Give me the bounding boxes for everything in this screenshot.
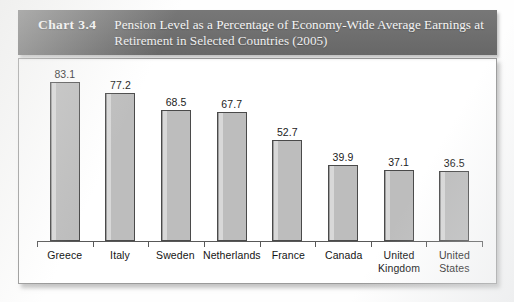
- bar-value-label: 39.9: [333, 151, 354, 163]
- bar-value-label: 83.1: [54, 68, 75, 80]
- x-axis-ticks: [37, 241, 482, 247]
- bar: [161, 110, 191, 241]
- axis-tick: [371, 241, 372, 247]
- axis-tick: [37, 241, 38, 247]
- category-label: France: [261, 249, 316, 262]
- category-slot: France: [261, 249, 316, 275]
- category-slot: United States: [427, 249, 482, 275]
- category-slot: Italy: [92, 249, 147, 275]
- plot-area: 83.177.268.567.752.739.937.136.5 GreeceI…: [19, 59, 496, 283]
- axis-tick: [315, 241, 316, 247]
- bar-slot: 39.9: [315, 63, 371, 241]
- axis-tick: [148, 241, 149, 247]
- bar: [105, 93, 135, 241]
- category-label: Greece: [37, 249, 92, 262]
- bar-slot: 52.7: [260, 63, 316, 241]
- axis-tick: [482, 241, 483, 247]
- category-slot: United Kingdom: [371, 249, 426, 275]
- bar-value-label: 67.7: [221, 98, 242, 110]
- bar-value-label: 68.5: [166, 96, 187, 108]
- bar-value-label: 77.2: [110, 79, 131, 91]
- x-axis-category-labels: GreeceItalySwedenNetherlandsFranceCanada…: [37, 249, 482, 275]
- axis-tick: [93, 241, 94, 247]
- bar-value-label: 52.7: [277, 126, 298, 138]
- category-label: United Kingdom: [371, 249, 426, 275]
- chart-figure: Chart 3.4 Pension Level as a Percentage …: [0, 0, 514, 302]
- bar-slot: 77.2: [93, 63, 149, 241]
- category-label: Italy: [92, 249, 147, 262]
- category-label: Canada: [316, 249, 371, 262]
- category-label: Netherlands: [203, 249, 261, 262]
- bar-slot: 68.5: [148, 63, 204, 241]
- bar: [328, 165, 358, 241]
- plot-panel: 83.177.268.567.752.739.937.136.5 GreeceI…: [18, 58, 497, 284]
- bar: [217, 112, 247, 241]
- axis-tick: [204, 241, 205, 247]
- bar-value-label: 37.1: [388, 156, 409, 168]
- bar: [384, 170, 414, 241]
- axis-tick: [260, 241, 261, 247]
- category-label: Sweden: [148, 249, 203, 262]
- category-slot: Greece: [37, 249, 92, 275]
- bar: [439, 171, 469, 241]
- bar: [272, 140, 302, 241]
- chart-number-label: Chart 3.4: [38, 17, 96, 33]
- category-slot: Canada: [316, 249, 371, 275]
- category-label: United States: [427, 249, 482, 275]
- category-slot: Netherlands: [203, 249, 261, 275]
- bar-slot: 67.7: [204, 63, 260, 241]
- bar-slot: 37.1: [371, 63, 427, 241]
- chart-title-label: Pension Level as a Percentage of Economy…: [114, 17, 489, 49]
- axis-tick: [426, 241, 427, 247]
- bar: [50, 82, 80, 241]
- bar-slot: 36.5: [426, 63, 482, 241]
- chart-header-text: Chart 3.4 Pension Level as a Percentage …: [38, 17, 489, 49]
- bar-series: 83.177.268.567.752.739.937.136.5: [37, 63, 482, 241]
- bar-slot: 83.1: [37, 63, 93, 241]
- bar-value-label: 36.5: [444, 157, 465, 169]
- chart-header-band: Chart 3.4 Pension Level as a Percentage …: [18, 10, 497, 55]
- category-slot: Sweden: [148, 249, 203, 275]
